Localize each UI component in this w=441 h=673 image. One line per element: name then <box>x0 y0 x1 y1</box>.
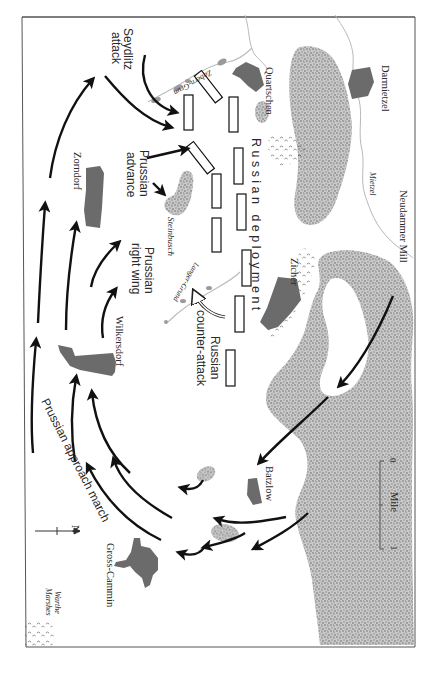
place-warthe-marshes: Warthe Marshes <box>44 587 62 616</box>
svg-text:right wing: right wing <box>129 243 143 294</box>
village-zorndorf <box>84 166 104 228</box>
label-prussian-advance: Prussian advance <box>124 150 151 198</box>
place-steinbusch: Steinbusch <box>166 217 176 256</box>
place-quartschen: Quartschen <box>264 67 275 116</box>
label-prussian-right-wing: Prussian right wing <box>129 243 156 294</box>
village-darmietzel <box>348 67 374 99</box>
map-frame <box>25 15 421 215</box>
battle-map: ^ ^ <box>0 0 441 673</box>
village-gross-cammin <box>114 538 158 588</box>
place-gross-cammin: Gross-Cammin <box>105 543 116 608</box>
label-seydlitz-attack: Seydlitz attack <box>109 28 135 70</box>
svg-text:Prussian: Prussian <box>137 150 151 197</box>
woods-batzlow-north <box>194 463 218 485</box>
place-darmietzel: Darmietzel <box>380 65 391 112</box>
label-russian-deployment: R u s s i a n d e p l o y m e n t <box>249 138 263 311</box>
place-batzlow: Batzlow <box>264 466 275 501</box>
scale-start: 0 <box>388 458 398 463</box>
woods-steinbusch <box>164 171 193 215</box>
place-wilkersdorf: Wilkersdorf <box>114 316 125 367</box>
label-prussian-approach-march: Prussian approach march <box>38 396 113 524</box>
label-russian-counter-attack: Russian counter-attack <box>194 310 222 387</box>
scale-end: 1 <box>389 546 398 550</box>
place-neudammer-mill: Neudammer Mill <box>398 190 409 263</box>
place-mietzel: Mietzel <box>368 171 377 196</box>
svg-text:attack: attack <box>109 32 123 65</box>
north-label: N <box>70 525 82 533</box>
place-zorndorf: Zorndorf <box>72 152 83 190</box>
place-zicher: Zicher <box>289 258 300 286</box>
svg-text:Warthe: Warthe <box>53 591 62 614</box>
svg-text:Russian: Russian <box>208 336 222 379</box>
woods-top <box>289 46 352 225</box>
svg-text:Marshes: Marshes <box>44 587 53 616</box>
svg-text:Prussian: Prussian <box>142 247 156 294</box>
scale-label: Mile <box>389 492 400 512</box>
village-wilkersdorf <box>58 345 116 376</box>
stream-quartschen <box>245 15 268 70</box>
village-batzlow <box>247 478 262 505</box>
svg-text:advance: advance <box>124 152 138 198</box>
marsh-warthe <box>25 620 54 646</box>
village-quartschen <box>232 62 264 92</box>
svg-text:counter-attack: counter-attack <box>194 310 208 387</box>
